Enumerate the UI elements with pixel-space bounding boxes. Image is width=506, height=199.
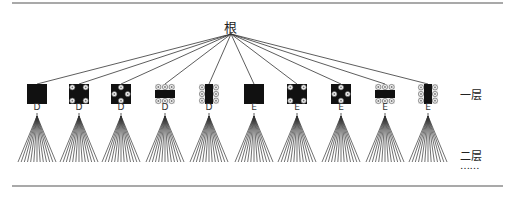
layer-one-label: 一层	[460, 86, 482, 102]
edge-root-to-node	[231, 34, 428, 84]
node-label: E	[248, 102, 260, 112]
node-label: E	[379, 102, 391, 112]
edge-root-to-node	[79, 34, 231, 84]
node-label: D	[115, 102, 127, 112]
node-label: E	[422, 102, 434, 112]
node-label: D	[73, 102, 85, 112]
edge-root-to-node	[37, 34, 231, 84]
more-layers-ellipsis: ……	[460, 160, 479, 171]
node-e-solid	[244, 84, 264, 104]
node-label: E	[291, 102, 303, 112]
tree-diagram	[0, 0, 506, 199]
node-label: D	[203, 102, 215, 112]
edge-root-to-node	[231, 34, 254, 84]
edge-root-to-node	[121, 34, 231, 84]
edge-root-to-node	[209, 34, 231, 84]
node-label: D	[159, 102, 171, 112]
root-label: 根	[224, 17, 237, 36]
node-label: E	[335, 102, 347, 112]
node-d-solid	[27, 84, 47, 104]
edge-root-to-node	[231, 34, 385, 84]
edge-root-to-node	[231, 34, 297, 84]
edge-root-to-node	[165, 34, 231, 84]
edge-root-to-node	[231, 34, 341, 84]
node-label: D	[31, 102, 43, 112]
